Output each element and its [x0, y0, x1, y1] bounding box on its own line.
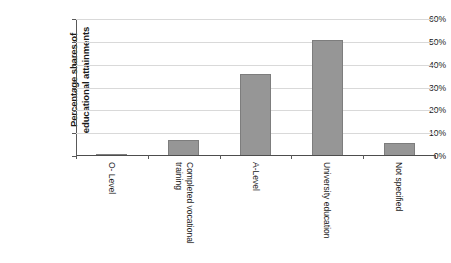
bar[interactable]: [168, 140, 199, 156]
x-tick-mark: [363, 155, 364, 159]
x-axis-line: [76, 155, 436, 156]
x-axis-label: University education: [320, 162, 334, 258]
x-axis-label: A-Level: [249, 162, 263, 258]
gridline: [76, 19, 435, 20]
bar[interactable]: [240, 74, 271, 156]
x-tick-mark: [435, 155, 436, 159]
x-axis-label-line: O- Level: [107, 162, 118, 194]
gridline: [76, 65, 435, 66]
x-axis-label-line: training: [173, 162, 184, 244]
x-axis-label-line: University education: [322, 162, 333, 239]
gridline: [76, 42, 435, 43]
x-axis-label-line: Completed vocational: [184, 162, 195, 244]
x-axis-label: O- Level: [105, 162, 119, 258]
bar[interactable]: [312, 40, 343, 156]
x-tick-mark: [148, 155, 149, 159]
bar-chart: Percentage shares of educational attainm…: [0, 0, 451, 263]
x-tick-mark: [220, 155, 221, 159]
x-axis-label: Not specified: [392, 162, 406, 258]
x-axis-label: Completed vocationaltraining: [177, 162, 191, 258]
x-tick-mark: [291, 155, 292, 159]
x-axis-label-line: A-Level: [250, 162, 261, 191]
x-tick-mark: [76, 155, 77, 159]
plot-area: [76, 19, 435, 156]
x-axis-label-line: Not specified: [394, 162, 405, 211]
